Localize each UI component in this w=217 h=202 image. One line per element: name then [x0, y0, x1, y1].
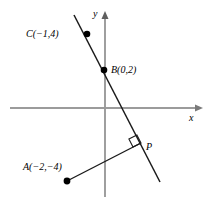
y-axis-arrowhead [102, 11, 109, 19]
coordinate-geometry-diagram: C(−1,4) B(0,2) A(−2,−4) P x y [0, 0, 217, 202]
point-a-label: A(−2,−4) [23, 162, 62, 172]
x-axis-arrowhead [195, 105, 203, 112]
point-b-dot [101, 67, 108, 74]
point-a-dot [64, 178, 71, 185]
point-b-label: B(0,2) [111, 65, 136, 75]
x-axis-label: x [189, 113, 193, 123]
point-p-label: P [146, 142, 152, 152]
point-c-label: C(−1,4) [26, 29, 59, 39]
point-c-dot [84, 31, 91, 38]
y-axis-label: y [93, 9, 97, 19]
segment-a-to-p [67, 143, 141, 181]
line-through-b-and-c [74, 15, 160, 182]
